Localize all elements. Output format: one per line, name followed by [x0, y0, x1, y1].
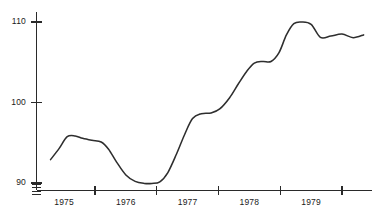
- y-axis-label-100: 100: [0, 97, 26, 107]
- x-axis-label-1979: 1979: [291, 197, 331, 207]
- x-axis-label-1975: 1975: [44, 197, 84, 207]
- axes-group: [37, 12, 373, 191]
- line-chart: 90100110 19751976197719781979: [0, 0, 386, 218]
- y-axis-label-110: 110: [0, 16, 26, 26]
- data-series-line: [51, 22, 364, 184]
- x-axis-label-1978: 1978: [229, 197, 269, 207]
- x-axis-label-1977: 1977: [168, 197, 208, 207]
- chart-plot-area: [0, 0, 386, 218]
- y-axis-label-90: 90: [0, 177, 26, 187]
- x-axis-label-1976: 1976: [106, 197, 146, 207]
